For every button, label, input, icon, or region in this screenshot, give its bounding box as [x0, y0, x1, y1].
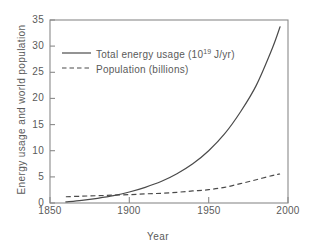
- legend-label-population: Population (billions): [96, 63, 189, 75]
- x-tick-label-1850: 1850: [30, 205, 70, 216]
- chart-figure: 0 5 10 15 20 25 30 35 1850 1900 1950 200…: [0, 0, 316, 249]
- x-tick-label-2000: 2000: [268, 205, 308, 216]
- legend-label-total-energy-usage: Total energy usage (1019 J/yr): [96, 48, 235, 60]
- legend-text-prefix-0: Total energy usage (10: [96, 49, 203, 60]
- x-tick-label-1950: 1950: [189, 205, 229, 216]
- x-axis-label: Year: [0, 231, 316, 242]
- legend-text-superscript-0: 19: [203, 48, 211, 55]
- legend-text-suffix-0: J/yr): [211, 49, 235, 60]
- legend-text-prefix-1: Population (billions): [96, 64, 189, 75]
- series-population: [66, 174, 280, 197]
- x-tick-label-1900: 1900: [109, 205, 149, 216]
- y-axis-label: Energy usage and world population: [16, 10, 27, 210]
- y-tick-marks: [50, 20, 55, 203]
